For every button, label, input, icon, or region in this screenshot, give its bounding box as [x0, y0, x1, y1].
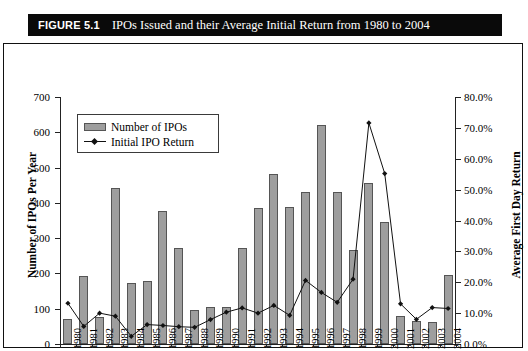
legend-label-line: Initial IPO Return: [111, 136, 194, 148]
x-tick-mark: [282, 344, 283, 348]
x-tick-label: 1988: [199, 328, 210, 349]
x-tick-label: 1996: [325, 328, 336, 349]
right-tick-mark: [456, 251, 461, 252]
bar: [301, 192, 310, 344]
x-tick-label: 1995: [310, 328, 321, 349]
x-tick-mark: [123, 344, 124, 348]
left-tick-label: 700: [16, 91, 50, 103]
x-tick-mark: [250, 344, 251, 348]
left-tick-mark: [55, 238, 60, 239]
x-tick-label: 1984: [135, 328, 146, 349]
left-tick-label: 0: [16, 338, 50, 350]
x-tick-label: 2003: [436, 328, 447, 349]
left-tick-label: 600: [16, 126, 50, 138]
x-tick-label: 1982: [104, 328, 115, 349]
x-tick-label: 1998: [357, 328, 368, 349]
right-tick-label: 0.0%: [464, 338, 487, 350]
chart-frame: Number of IPOs Per Year Average First Da…: [3, 43, 523, 348]
x-tick-mark: [456, 344, 457, 348]
left-tick-mark: [55, 309, 60, 310]
x-tick-mark: [361, 344, 362, 348]
x-tick-mark: [60, 344, 61, 348]
x-tick-label: 2004: [452, 328, 463, 349]
right-tick-mark: [456, 97, 461, 98]
x-tick-label: 1985: [151, 328, 162, 349]
line-diamond-icon: [84, 138, 106, 146]
x-tick-label: 1989: [214, 328, 225, 349]
x-tick-mark: [76, 344, 77, 348]
x-tick-mark: [218, 344, 219, 348]
x-tick-label: 2000: [389, 328, 400, 349]
bar: [269, 174, 278, 344]
x-tick-label: 1997: [341, 328, 352, 349]
x-tick-label: 1999: [373, 328, 384, 349]
x-tick-mark: [108, 344, 109, 348]
x-tick-label: 1980: [72, 328, 83, 349]
x-tick-mark: [313, 344, 314, 348]
left-tick-mark: [55, 273, 60, 274]
bar: [254, 208, 263, 344]
right-axis-title-wrap: Average First Day Return: [502, 97, 516, 344]
right-tick-mark: [456, 190, 461, 191]
x-tick-label: 1981: [88, 328, 99, 349]
x-tick-label: 1986: [167, 328, 178, 349]
left-tick-label: 200: [16, 267, 50, 279]
x-tick-mark: [155, 344, 156, 348]
x-tick-mark: [329, 344, 330, 348]
right-tick-mark: [456, 313, 461, 314]
left-tick-mark: [55, 168, 60, 169]
bar: [317, 125, 326, 344]
x-tick-mark: [345, 344, 346, 348]
x-tick-label: 1991: [246, 328, 257, 349]
x-tick-mark: [234, 344, 235, 348]
x-tick-mark: [377, 344, 378, 348]
left-tick-label: 300: [16, 232, 50, 244]
left-tick-label: 100: [16, 303, 50, 315]
right-tick-label: 80.0%: [464, 91, 492, 103]
x-tick-label: 1990: [230, 328, 241, 349]
x-tick-label: 1994: [294, 328, 305, 349]
x-tick-label: 1993: [278, 328, 289, 349]
bar: [285, 207, 294, 344]
x-tick-mark: [92, 344, 93, 348]
x-tick-mark: [187, 344, 188, 348]
x-tick-label: 1983: [119, 328, 130, 349]
legend-label-bars: Number of IPOs: [111, 121, 187, 133]
figure-title: IPOs Issued and their Average Initial Re…: [112, 18, 430, 33]
bar: [158, 211, 167, 344]
bar: [380, 222, 389, 344]
right-tick-label: 30.0%: [464, 245, 492, 257]
right-axis-title: Average First Day Return: [510, 92, 522, 339]
chart-legend: Number of IPOs Initial IPO Return: [77, 114, 219, 153]
x-tick-mark: [171, 344, 172, 348]
legend-item-bars: Number of IPOs: [84, 119, 212, 134]
left-tick-mark: [55, 132, 60, 133]
bar-swatch-icon: [84, 123, 106, 131]
bar: [364, 183, 373, 344]
x-tick-mark: [393, 344, 394, 348]
figure-number: FIGURE 5.1: [38, 19, 100, 31]
right-tick-label: 20.0%: [464, 276, 492, 288]
left-tick-label: 500: [16, 162, 50, 174]
x-tick-label: 1987: [183, 328, 194, 349]
x-tick-mark: [440, 344, 441, 348]
x-tick-label: 1992: [262, 328, 273, 349]
x-tick-label: 2001: [405, 328, 416, 349]
right-tick-mark: [456, 221, 461, 222]
right-tick-mark: [456, 159, 461, 160]
x-tick-mark: [408, 344, 409, 348]
legend-item-line: Initial IPO Return: [84, 134, 212, 149]
right-tick-mark: [456, 128, 461, 129]
right-tick-label: 10.0%: [464, 307, 492, 319]
right-tick-mark: [456, 282, 461, 283]
figure-container: FIGURE 5.1 IPOs Issued and their Average…: [0, 0, 528, 351]
left-tick-mark: [55, 203, 60, 204]
x-tick-mark: [298, 344, 299, 348]
left-tick-mark: [55, 97, 60, 98]
x-tick-mark: [139, 344, 140, 348]
right-tick-label: 60.0%: [464, 153, 492, 165]
x-tick-mark: [266, 344, 267, 348]
figure-banner: FIGURE 5.1 IPOs Issued and their Average…: [28, 14, 502, 36]
x-tick-mark: [424, 344, 425, 348]
right-tick-label: 40.0%: [464, 215, 492, 227]
